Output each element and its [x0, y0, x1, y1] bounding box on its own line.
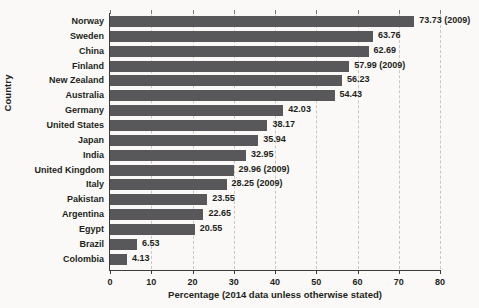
bar-value-label: 38.17 [272, 119, 295, 129]
bar [110, 120, 267, 131]
bar [110, 254, 127, 265]
x-tick-20 [193, 270, 194, 274]
x-tick-top-80 [440, 10, 441, 14]
bar-value-label: 23.55 [212, 193, 235, 203]
bar-value-label: 54.43 [340, 89, 363, 99]
category-label: Colombia [0, 254, 104, 264]
bar-value-label: 28.25 (2009) [232, 178, 283, 188]
x-tick-label-50: 50 [311, 277, 321, 287]
bar [110, 105, 283, 116]
x-tick-label-0: 0 [107, 277, 112, 287]
x-tick-50 [316, 270, 317, 274]
bar-row: 4.13 [110, 254, 440, 265]
bar [110, 209, 203, 220]
bar [110, 75, 342, 86]
bar-row: 57.99 (2009) [110, 61, 440, 72]
plot-area: 73.73 (2009)63.7662.6957.99 (2009)56.235… [110, 15, 440, 269]
bar-row: 29.96 (2009) [110, 165, 440, 176]
category-label: United States [0, 120, 104, 130]
bar-value-label: 22.65 [208, 208, 231, 218]
x-tick-top-60 [358, 10, 359, 14]
bar-row: 62.69 [110, 46, 440, 57]
x-tick-40 [275, 270, 276, 274]
bar-row: 56.23 [110, 75, 440, 86]
bar-row: 6.53 [110, 239, 440, 250]
category-label: Japan [0, 135, 104, 145]
bar-value-label: 62.69 [374, 45, 397, 55]
bar-row: 38.17 [110, 120, 440, 131]
category-label: Italy [0, 179, 104, 189]
category-label: China [0, 46, 104, 56]
bar-value-label: 57.99 (2009) [354, 60, 405, 70]
x-axis-title: Percentage (2014 data unless otherwise s… [110, 289, 440, 300]
x-tick-label-20: 20 [187, 277, 197, 287]
x-tick-label-60: 60 [352, 277, 362, 287]
x-tick-80 [440, 270, 441, 274]
bar-value-label: 4.13 [132, 253, 150, 263]
x-tick-0 [110, 270, 111, 274]
category-label: United Kingdom [0, 165, 104, 175]
x-tick-top-20 [193, 10, 194, 14]
bar-value-label: 42.03 [288, 104, 311, 114]
x-tick-top-0 [110, 10, 111, 14]
x-tick-top-70 [399, 10, 400, 14]
x-tick-top-40 [275, 10, 276, 14]
x-tick-label-10: 10 [146, 277, 156, 287]
category-label: Finland [0, 61, 104, 71]
category-label: Germany [0, 105, 104, 115]
category-label: Egypt [0, 224, 104, 234]
bar-row: 42.03 [110, 105, 440, 116]
x-tick-top-30 [234, 10, 235, 14]
bar-row: 32.95 [110, 150, 440, 161]
x-tick-10 [151, 270, 152, 274]
bar-row: 73.73 (2009) [110, 16, 440, 27]
bar [110, 165, 234, 176]
bar [110, 224, 195, 235]
x-tick-label-70: 70 [394, 277, 404, 287]
bar [110, 135, 258, 146]
bar [110, 179, 227, 190]
bar [110, 16, 414, 27]
bar [110, 31, 373, 42]
bar-row: 23.55 [110, 194, 440, 205]
bar [110, 239, 137, 250]
x-tick-60 [358, 270, 359, 274]
category-label: Pakistan [0, 194, 104, 204]
bar-value-label: 73.73 (2009) [419, 15, 470, 25]
category-label: Argentina [0, 209, 104, 219]
bar-chart: Country NorwaySwedenChinaFinlandNew Zeal… [0, 0, 479, 308]
bar-value-label: 6.53 [142, 238, 160, 248]
category-label: Norway [0, 16, 104, 26]
bar-value-label: 32.95 [251, 149, 274, 159]
bar [110, 46, 369, 57]
category-label: New Zealand [0, 75, 104, 85]
category-label: India [0, 150, 104, 160]
bar-value-label: 29.96 (2009) [239, 164, 290, 174]
bar [110, 90, 335, 101]
x-tick-30 [234, 270, 235, 274]
category-label: Sweden [0, 31, 104, 41]
bar-row: 54.43 [110, 90, 440, 101]
bar-value-label: 56.23 [347, 74, 370, 84]
x-tick-label-40: 40 [270, 277, 280, 287]
category-label: Australia [0, 90, 104, 100]
x-tick-top-50 [316, 10, 317, 14]
bar [110, 61, 349, 72]
bar-row: 28.25 (2009) [110, 179, 440, 190]
bar-value-label: 20.55 [200, 223, 223, 233]
x-tick-70 [399, 270, 400, 274]
bar-row: 20.55 [110, 224, 440, 235]
bar-row: 22.65 [110, 209, 440, 220]
y-axis-category-labels: NorwaySwedenChinaFinlandNew ZealandAustr… [0, 15, 104, 269]
bar [110, 194, 207, 205]
bar-value-label: 35.94 [263, 134, 286, 144]
x-tick-label-30: 30 [229, 277, 239, 287]
bar-row: 35.94 [110, 135, 440, 146]
x-tick-top-10 [151, 10, 152, 14]
x-tick-label-80: 80 [435, 277, 445, 287]
bar-value-label: 63.76 [378, 30, 401, 40]
bar-row: 63.76 [110, 31, 440, 42]
gridline-80 [440, 15, 441, 269]
bar [110, 150, 246, 161]
category-label: Brazil [0, 239, 104, 249]
